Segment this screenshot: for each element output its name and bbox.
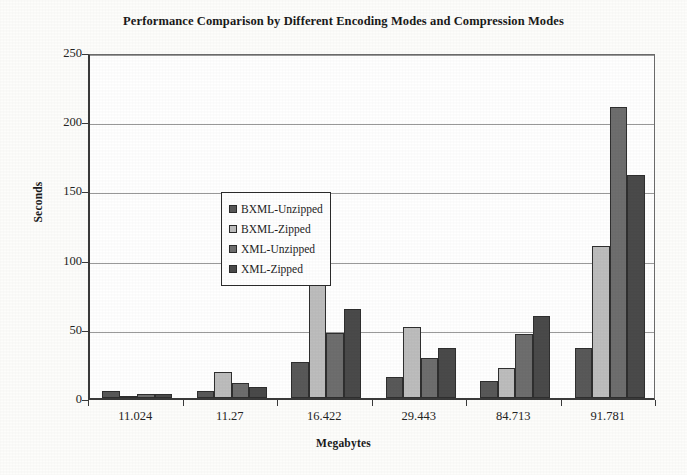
gridline [90, 124, 654, 125]
bar [197, 391, 214, 398]
x-axis-tick-mark [372, 400, 373, 406]
legend-label-xml-unzipped: XML-Unzipped [241, 243, 315, 255]
bar [627, 175, 644, 398]
y-axis-tick-label: 150 [42, 184, 82, 199]
y-axis-tick-label: 200 [42, 115, 82, 130]
gridline [90, 263, 654, 264]
x-axis-tick-mark [183, 400, 184, 406]
legend-item: BXML-Unzipped [229, 199, 324, 219]
legend-label-bxml-zipped: BXML-Zipped [241, 223, 311, 235]
y-axis-tick-mark [82, 54, 88, 55]
legend-label-xml-zipped: XML-Zipped [241, 263, 303, 275]
legend-swatch-xml-unzipped [229, 245, 237, 253]
bar [498, 368, 515, 398]
y-axis-tick-label: 250 [42, 46, 82, 61]
bar [403, 327, 420, 398]
bar [386, 377, 403, 398]
chart-figure: Performance Comparison by Different Enco… [0, 0, 687, 475]
legend-item: XML-Unzipped [229, 239, 324, 259]
legend-swatch-bxml-zipped [229, 225, 237, 233]
bar [232, 383, 249, 398]
bar [137, 394, 154, 398]
x-axis-tick-mark [655, 400, 656, 406]
bar [326, 333, 343, 398]
x-axis-tick-label: 91.781 [563, 409, 653, 424]
gridline [90, 55, 654, 56]
bar [610, 107, 627, 398]
bar [309, 273, 326, 398]
legend-swatch-xml-zipped [229, 265, 237, 273]
y-axis-tick-label: 100 [42, 254, 82, 269]
x-axis-label: Megabytes [0, 437, 687, 449]
bar [575, 348, 592, 398]
y-axis-tick-mark [82, 192, 88, 193]
bar [344, 309, 361, 398]
bar [249, 387, 266, 398]
legend-label-bxml-unzipped: BXML-Unzipped [241, 203, 323, 215]
legend-item: XML-Zipped [229, 259, 324, 279]
x-axis-tick-mark [88, 400, 89, 406]
bar [421, 358, 438, 398]
x-axis-tick-mark [277, 400, 278, 406]
legend-item: BXML-Zipped [229, 219, 324, 239]
y-axis-tick-label: 0 [42, 392, 82, 407]
gridline [90, 332, 654, 333]
x-axis-tick-mark [466, 400, 467, 406]
y-axis-tick-label: 50 [42, 323, 82, 338]
bar [291, 362, 308, 398]
chart-title: Performance Comparison by Different Enco… [0, 14, 687, 29]
bar [533, 316, 550, 398]
y-axis-tick-mark [82, 400, 88, 401]
gridline [90, 193, 654, 194]
bar [515, 334, 532, 398]
x-axis-tick-label: 84.713 [468, 409, 558, 424]
x-axis-tick-label: 11.024 [90, 409, 180, 424]
x-axis-tick-mark [561, 400, 562, 406]
chart-legend: BXML-Unzipped BXML-Zipped XML-Unzipped X… [221, 192, 331, 286]
plot-area: BXML-Unzipped BXML-Zipped XML-Unzipped X… [88, 54, 655, 400]
y-axis-tick-mark [82, 331, 88, 332]
bar [480, 381, 497, 398]
bar [592, 246, 609, 398]
bar [155, 394, 172, 398]
x-axis-tick-label: 16.422 [279, 409, 369, 424]
x-axis-tick-label: 29.443 [374, 409, 464, 424]
bar [102, 391, 119, 398]
legend-swatch-bxml-unzipped [229, 205, 237, 213]
y-axis-tick-mark [82, 123, 88, 124]
bar [438, 348, 455, 398]
bar [214, 372, 231, 398]
y-axis-tick-mark [82, 262, 88, 263]
bar [120, 396, 137, 398]
x-axis-tick-label: 11.27 [185, 409, 275, 424]
y-axis-tick-labels: 050100150200250 [40, 54, 82, 400]
